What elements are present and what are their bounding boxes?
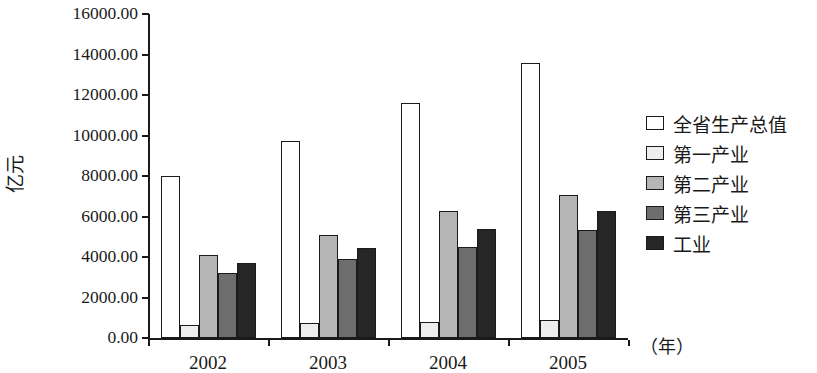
bar <box>401 103 420 338</box>
y-axis-tick-label: 8000.00 <box>26 167 138 185</box>
legend: 全省生产总值第一产业第二产业第三产业工业 <box>646 108 816 258</box>
y-axis-tick-label: 0.00 <box>26 329 138 347</box>
legend-swatch-icon <box>646 206 664 220</box>
legend-swatch-icon <box>646 146 664 160</box>
legend-item: 第一产业 <box>646 138 816 168</box>
legend-label: 第三产业 <box>673 200 749 227</box>
y-axis-tick-label: 12000.00 <box>26 86 138 104</box>
legend-label: 工业 <box>673 230 711 257</box>
legend-swatch-icon <box>646 236 664 250</box>
y-axis-tick-mark <box>142 256 149 258</box>
x-axis-unit-label: （年） <box>640 332 694 358</box>
bar <box>218 273 237 338</box>
bar <box>439 211 458 338</box>
y-axis-tick-mark <box>142 94 149 96</box>
bar <box>540 320 559 338</box>
legend-item: 工业 <box>646 228 816 258</box>
legend-label: 第一产业 <box>673 140 749 167</box>
legend-swatch-icon <box>646 116 664 130</box>
x-axis-tick-mark <box>388 340 390 346</box>
bar <box>559 195 578 338</box>
x-axis-tick-mark <box>268 340 270 346</box>
x-axis-tick-label: 2002 <box>148 352 268 373</box>
legend-label: 全省生产总值 <box>673 110 787 137</box>
plot-area: 2002200320042005 <box>148 14 628 338</box>
y-axis-tick-mark <box>142 216 149 218</box>
bar <box>357 248 376 338</box>
y-axis-tick-label: 10000.00 <box>26 127 138 145</box>
y-axis-tick-labels: 0.002000.004000.006000.008000.0010000.00… <box>26 0 138 360</box>
y-axis-tick-mark <box>142 135 149 137</box>
x-axis-tick-label: 2004 <box>388 352 508 373</box>
bar <box>521 63 540 338</box>
x-axis-tick-mark <box>508 340 510 346</box>
bar <box>161 176 180 338</box>
bar <box>477 229 496 338</box>
y-axis-tick-mark <box>142 337 149 339</box>
bar <box>199 255 218 338</box>
bar <box>458 247 477 338</box>
y-axis-tick-label: 6000.00 <box>26 208 138 226</box>
x-axis-tick-mark <box>628 340 630 346</box>
x-axis-tick-label: 2003 <box>268 352 388 373</box>
y-axis-tick-mark <box>142 175 149 177</box>
legend-swatch-icon <box>646 176 664 190</box>
bar <box>319 235 338 338</box>
y-axis-tick-label: 16000.00 <box>26 5 138 23</box>
bar <box>237 263 256 338</box>
y-axis-tick-mark <box>142 297 149 299</box>
y-axis-tick-label: 14000.00 <box>26 46 138 64</box>
y-axis-tick-label: 4000.00 <box>26 248 138 266</box>
legend-label: 第二产业 <box>673 170 749 197</box>
x-axis-tick-mark <box>148 340 150 346</box>
bar <box>300 323 319 338</box>
y-axis-tick-mark <box>142 54 149 56</box>
legend-item: 全省生产总值 <box>646 108 816 138</box>
x-axis-tick-label: 2005 <box>508 352 628 373</box>
y-axis-label: 亿元 <box>0 144 27 204</box>
bar <box>597 211 616 338</box>
legend-item: 第三产业 <box>646 198 816 228</box>
bar <box>338 259 357 338</box>
bar <box>281 141 300 338</box>
bar <box>180 325 199 338</box>
bar <box>420 322 439 338</box>
y-axis-tick-label: 2000.00 <box>26 289 138 307</box>
bar <box>578 230 597 338</box>
y-axis-tick-mark <box>142 13 149 15</box>
legend-item: 第二产业 <box>646 168 816 198</box>
